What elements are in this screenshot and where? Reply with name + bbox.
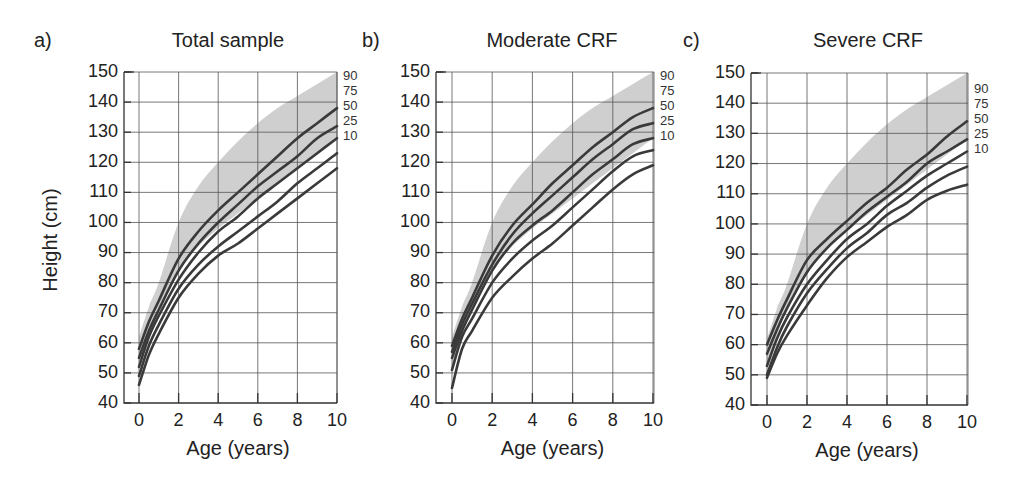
y-tick-label: 40: [725, 394, 745, 414]
growth-chart-figure: Height (cm) a) Total sample 405060708090…: [0, 0, 1020, 490]
plot-area: 4050607080901001101201301401500246810907…: [400, 61, 675, 459]
y-tick-label: 90: [410, 241, 430, 261]
percentile-label-90: 90: [343, 68, 357, 83]
reference-band: [767, 73, 967, 369]
y-tick-label: 120: [715, 152, 745, 172]
y-tick-label: 90: [725, 243, 745, 263]
panel-letter: b): [362, 29, 380, 51]
plot-area: 4050607080901001101201301401500246810907…: [88, 61, 358, 459]
panel-title: Severe CRF: [813, 29, 923, 51]
y-tick-label: 150: [400, 61, 430, 81]
chart-canvas: Height (cm) a) Total sample 405060708090…: [0, 0, 1020, 490]
y-tick-label: 150: [715, 62, 745, 82]
y-tick-label: 70: [410, 301, 430, 321]
percentile-label-50: 50: [974, 111, 988, 126]
percentile-label-25: 25: [660, 113, 674, 128]
y-axis-label: Height (cm): [39, 188, 61, 291]
y-tick-label: 140: [715, 92, 745, 112]
x-axis-label: Age (years): [815, 439, 918, 461]
y-tick-label: 100: [400, 211, 430, 231]
y-tick-label: 70: [98, 301, 118, 321]
x-tick-label: 10: [643, 410, 663, 430]
x-tick-label: 0: [447, 410, 457, 430]
percentile-label-90: 90: [660, 68, 674, 83]
y-tick-label: 80: [725, 273, 745, 293]
y-tick-label: 60: [98, 332, 118, 352]
y-tick-label: 140: [88, 91, 118, 111]
percentile-label-10: 10: [974, 141, 988, 156]
y-tick-label: 140: [400, 91, 430, 111]
x-tick-label: 2: [802, 412, 812, 432]
panel-severe-crf: c) Severe CRF 40506070809010011012013014…: [683, 29, 988, 461]
y-tick-label: 100: [88, 211, 118, 231]
x-tick-label: 8: [608, 410, 618, 430]
x-tick-label: 2: [174, 410, 184, 430]
percentile-label-75: 75: [660, 83, 674, 98]
percentile-label-90: 90: [974, 81, 988, 96]
y-tick-label: 60: [725, 333, 745, 353]
y-tick-label: 80: [98, 271, 118, 291]
y-tick-label: 50: [98, 362, 118, 382]
panel-moderate-crf: b) Moderate CRF 405060708090100110120130…: [362, 29, 674, 459]
x-tick-label: 6: [882, 412, 892, 432]
y-tick-label: 120: [88, 151, 118, 171]
percentile-label-10: 10: [343, 128, 357, 143]
x-tick-label: 0: [134, 410, 144, 430]
y-tick-label: 90: [98, 241, 118, 261]
y-tick-label: 60: [410, 332, 430, 352]
panel-total-sample: a) Total sample 405060708090100110120130…: [34, 29, 357, 459]
percentile-label-25: 25: [974, 126, 988, 141]
y-tick-label: 120: [400, 151, 430, 171]
reference-band: [452, 72, 653, 367]
percentile-label-75: 75: [974, 96, 988, 111]
x-tick-label: 6: [568, 410, 578, 430]
y-tick-label: 150: [88, 61, 118, 81]
x-tick-label: 0: [762, 412, 772, 432]
y-tick-label: 70: [725, 303, 745, 323]
x-tick-label: 4: [213, 410, 223, 430]
x-axis-label: Age (years): [501, 437, 604, 459]
x-tick-label: 8: [922, 412, 932, 432]
percentile-label-50: 50: [660, 98, 674, 113]
y-tick-label: 50: [725, 364, 745, 384]
panel-title: Moderate CRF: [486, 29, 617, 51]
x-tick-label: 4: [527, 410, 537, 430]
y-tick-label: 100: [715, 213, 745, 233]
panel-letter: c): [683, 29, 700, 51]
x-tick-label: 10: [957, 412, 977, 432]
y-tick-label: 130: [715, 122, 745, 142]
y-tick-label: 110: [89, 181, 118, 201]
y-tick-label: 80: [410, 271, 430, 291]
x-tick-label: 6: [253, 410, 263, 430]
y-tick-label: 110: [401, 181, 430, 201]
y-tick-label: 110: [716, 182, 745, 202]
y-tick-label: 50: [410, 362, 430, 382]
percentile-label-50: 50: [343, 98, 357, 113]
y-tick-label: 130: [400, 121, 430, 141]
y-tick-label: 40: [410, 392, 430, 412]
x-tick-label: 10: [327, 410, 347, 430]
reference-band: [139, 72, 337, 367]
percentile-label-75: 75: [343, 83, 357, 98]
x-tick-label: 2: [487, 410, 497, 430]
percentile-label-25: 25: [343, 113, 357, 128]
x-axis-label: Age (years): [186, 437, 289, 459]
y-tick-label: 40: [98, 392, 118, 412]
plot-area: 4050607080901001101201301401500246810907…: [715, 62, 989, 461]
x-tick-label: 4: [842, 412, 852, 432]
percentile-label-10: 10: [660, 128, 674, 143]
x-tick-label: 8: [292, 410, 302, 430]
y-tick-label: 130: [88, 121, 118, 141]
panel-title: Total sample: [172, 29, 284, 51]
panel-letter: a): [34, 29, 52, 51]
